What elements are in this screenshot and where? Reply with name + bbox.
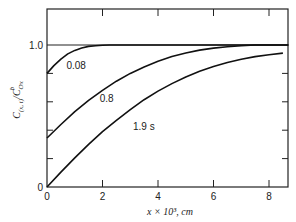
y-tick-label: 0 bbox=[37, 182, 43, 193]
x-tick-label: 8 bbox=[266, 191, 272, 202]
y-axis-title: C(x, t)/COxb bbox=[8, 80, 25, 118]
curve-label: 0.8 bbox=[100, 93, 114, 104]
x-tick-label: 2 bbox=[100, 191, 106, 202]
chart: 0246801.0 0.080.81.9 s x × 10³, cm C(x, … bbox=[0, 0, 296, 222]
x-tick-label: 4 bbox=[155, 191, 161, 202]
curve-1-9-s bbox=[47, 53, 283, 187]
curve-0-8 bbox=[47, 45, 288, 138]
y-axis-title-sub1: (x, t) bbox=[17, 98, 25, 112]
y-tick-label: 1.0 bbox=[29, 40, 43, 51]
plot-area-border bbox=[47, 9, 288, 187]
x-tick-label: 6 bbox=[211, 191, 217, 202]
x-tick-label: 0 bbox=[44, 191, 50, 202]
y-axis-title-sub2: Ox bbox=[17, 80, 25, 89]
curve-label: 0.08 bbox=[66, 60, 86, 71]
curve-label: 1.9 s bbox=[133, 121, 155, 132]
curve-labels: 0.080.81.9 s bbox=[66, 60, 154, 132]
y-axis-title-sup: b bbox=[8, 86, 16, 90]
plot-frame bbox=[47, 9, 288, 187]
axis-ticks bbox=[47, 9, 288, 187]
x-axis-title: x × 10³, cm bbox=[146, 206, 193, 217]
